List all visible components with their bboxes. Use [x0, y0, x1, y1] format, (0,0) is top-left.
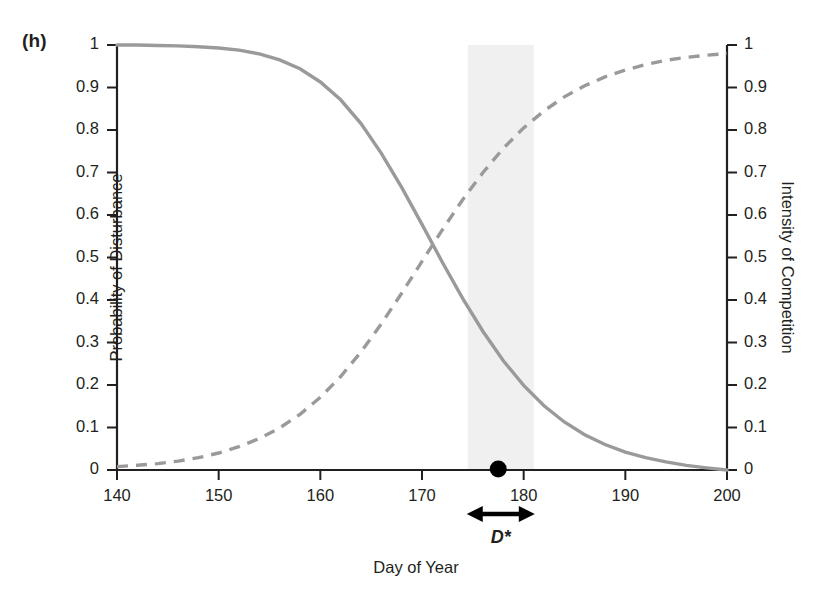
probability-of-disturbance-curve — [117, 45, 727, 470]
y-axis-left-tick-label: 0.5 — [39, 247, 99, 266]
optimum-point-marker — [490, 461, 507, 478]
x-axis-tick-label: 190 — [590, 486, 660, 505]
x-axis-tick-label: 170 — [387, 486, 457, 505]
y-axis-right-tick-label: 0.5 — [744, 247, 804, 266]
y-axis-left-tick-label: 0.7 — [39, 162, 99, 181]
y-axis-left-tick-label: 0.1 — [39, 417, 99, 436]
dstar-double-arrow — [467, 506, 535, 522]
y-axis-right-tick-label: 0.3 — [744, 332, 804, 351]
intensity-of-competition-curve — [117, 54, 727, 467]
y-axis-left-tick-label: 0.8 — [39, 119, 99, 138]
y-axis-left-title: Probability of Disturbance — [107, 118, 126, 418]
y-axis-right-tick-label: 0.4 — [744, 289, 804, 308]
y-axis-right-tick-label: 0.2 — [744, 374, 804, 393]
y-axis-left-tick-label: 0.6 — [39, 204, 99, 223]
dstar-annotation-label: D* — [461, 527, 541, 548]
x-axis-tick-label: 200 — [692, 486, 762, 505]
y-axis-right-tick-label: 0 — [744, 459, 804, 478]
y-axis-left-tick-label: 0.9 — [39, 77, 99, 96]
y-axis-right-tick-label: 0.9 — [744, 77, 804, 96]
y-axis-left-tick-label: 0.2 — [39, 374, 99, 393]
y-axis-left-tick-label: 0 — [39, 459, 99, 478]
y-axis-left-tick-label: 1 — [39, 34, 99, 53]
x-axis-tick-label: 140 — [82, 486, 152, 505]
dstar-shaded-band — [468, 45, 534, 470]
x-axis-ticks — [117, 470, 727, 480]
x-axis-tick-label: 150 — [184, 486, 254, 505]
y-axis-right-tick-label: 0.8 — [744, 119, 804, 138]
y-axis-right-tick-label: 0.1 — [744, 417, 804, 436]
figure-panel-h: (h) Probability of Disturbance Intensity… — [0, 0, 832, 610]
x-axis-tick-label: 160 — [285, 486, 355, 505]
y-axis-right-ticks — [727, 45, 737, 470]
x-axis-title: Day of Year — [0, 558, 832, 577]
y-axis-left-tick-label: 0.4 — [39, 289, 99, 308]
y-axis-right-tick-label: 0.6 — [744, 204, 804, 223]
y-axis-right-tick-label: 1 — [744, 34, 804, 53]
x-axis-tick-label: 180 — [489, 486, 559, 505]
y-axis-left-tick-label: 0.3 — [39, 332, 99, 351]
y-axis-right-tick-label: 0.7 — [744, 162, 804, 181]
